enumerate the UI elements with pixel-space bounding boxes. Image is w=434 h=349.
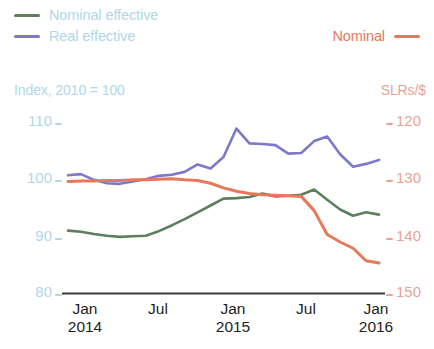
series-layer	[68, 129, 379, 264]
line-real-effective	[68, 129, 379, 184]
x-tick-month: Jul	[148, 300, 168, 317]
x-tick-month: Jul	[296, 300, 316, 317]
x-tick-jan-2016: Jan 2016	[359, 300, 393, 335]
x-tick-month: Jan	[363, 300, 388, 317]
x-tick-year: 2016	[359, 318, 393, 336]
chart-root: Nominal effective Real effective Nominal…	[0, 0, 434, 349]
x-tick-jan-2014: Jan 2014	[68, 300, 102, 335]
x-tick-jan-2015: Jan 2015	[216, 300, 250, 335]
x-tick-month: Jan	[72, 300, 97, 317]
x-tick-jul-2015: Jul	[296, 300, 316, 318]
x-tick-month: Jan	[220, 300, 245, 317]
x-tick-year: 2015	[216, 318, 250, 336]
x-tick-year: 2014	[68, 318, 102, 336]
x-tick-jul-2014: Jul	[148, 300, 168, 318]
line-nominal-rate	[68, 179, 379, 263]
line-nominal-effective	[68, 190, 379, 237]
plot-area	[0, 0, 434, 349]
x-axis-labels: Jan 2014 Jul Jan 2015 Jul Jan 2016	[0, 300, 434, 346]
